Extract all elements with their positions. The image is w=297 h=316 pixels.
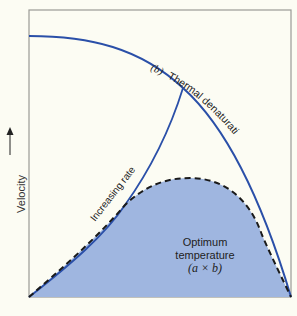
y-axis-label: Velocity [15, 159, 27, 229]
up-arrow-head-icon [7, 127, 14, 135]
optimum-label-formula: (a × b) [150, 262, 260, 275]
thermal-curve-label: (b) Thermal denaturation [0, 0, 242, 136]
optimum-temperature-label: Optimum temperature (a × b) [150, 236, 260, 275]
optimum-label-line1: Optimum [150, 236, 260, 249]
